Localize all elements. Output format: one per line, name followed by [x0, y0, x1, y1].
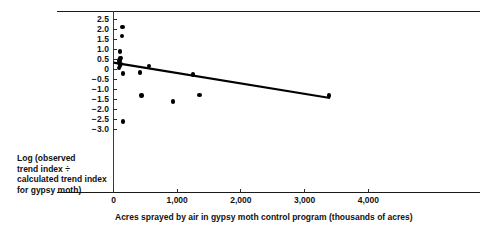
x-axis-tick-mark — [304, 189, 305, 193]
x-axis-tick-label: 4,000 — [348, 196, 388, 205]
x-axis-tick-mark — [177, 189, 178, 193]
y-axis-tick-label: 1.0 — [83, 45, 109, 54]
y-axis-tick-mark — [113, 39, 117, 40]
x-axis-tick-label: 0 — [94, 196, 134, 205]
y-axis-tick-label: −1.0 — [83, 85, 109, 94]
data-point — [119, 62, 123, 66]
data-point — [139, 93, 143, 97]
y-axis-tick-label: 0 — [83, 65, 109, 74]
y-axis-tick-label: 2.5 — [83, 15, 109, 24]
data-point — [117, 66, 121, 70]
y-axis-tick-mark — [113, 19, 117, 20]
data-point — [147, 64, 151, 68]
trendline — [114, 63, 331, 98]
data-point — [138, 70, 142, 74]
data-point — [327, 93, 331, 97]
y-axis-tick-mark — [113, 29, 117, 30]
x-axis-tick-mark — [368, 189, 369, 193]
y-axis-tick-mark — [113, 79, 117, 80]
data-point — [171, 99, 175, 103]
y-axis-tick-label: −2.0 — [83, 105, 109, 114]
x-axis-title: Acres sprayed by air in gypsy moth contr… — [115, 212, 413, 222]
data-point — [197, 93, 201, 97]
data-point — [120, 25, 124, 29]
scatter-chart-figure: 2.52.01.51.00.50−0.5−1.0−1.5−2.0−2.5−3.0… — [0, 0, 485, 238]
y-axis-tick-label: 2.0 — [83, 25, 109, 34]
y-axis-title-line-3: calculated trend index — [17, 174, 113, 185]
y-axis-tick-label: −3.0 — [83, 125, 109, 134]
x-axis-tick-label: 2,000 — [221, 196, 261, 205]
y-axis-tick-mark — [113, 49, 117, 50]
y-axis-tick-label: −0.5 — [83, 75, 109, 84]
y-axis-title-line-1: Log (observed — [17, 153, 113, 164]
y-axis-tick-mark — [113, 109, 117, 110]
top-divider-rule — [57, 11, 480, 12]
y-axis-tick-mark — [113, 89, 117, 90]
y-axis-tick-mark — [113, 129, 117, 130]
data-point — [120, 34, 124, 38]
x-axis-tick-label: 1,000 — [157, 196, 197, 205]
y-axis-tick-label: −1.5 — [83, 95, 109, 104]
y-axis-tick-label: 0.5 — [83, 55, 109, 64]
data-point — [121, 119, 125, 123]
x-axis-tick-mark — [240, 189, 241, 193]
y-axis-tick-label: 1.5 — [83, 35, 109, 44]
bottom-divider-rule — [57, 192, 480, 193]
y-axis-title-line-2: trend index ÷ — [17, 164, 113, 175]
x-axis-tick-mark — [113, 189, 114, 193]
data-point — [121, 71, 125, 75]
y-axis-tick-mark — [113, 99, 117, 100]
data-point — [191, 72, 195, 76]
x-axis-tick-label: 3,000 — [285, 196, 325, 205]
y-axis-title-line-4: for gypsy moth) — [17, 185, 113, 196]
y-axis-tick-mark — [113, 119, 117, 120]
y-axis-tick-label: −2.5 — [83, 115, 109, 124]
data-point — [118, 49, 122, 53]
y-axis-title: Log (observed trend index ÷ calculated t… — [17, 153, 113, 195]
